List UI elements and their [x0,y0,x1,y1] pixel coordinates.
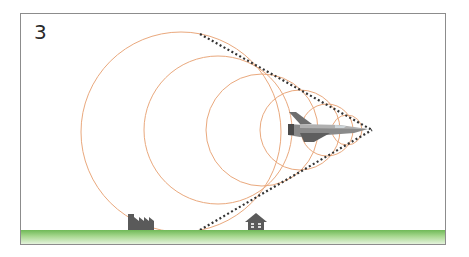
wavefront-2 [144,56,292,204]
sonic-boom-diagram [0,0,469,257]
cone-upper-edge [200,34,372,130]
house-icon [245,213,267,230]
fighter-jet-icon [288,112,368,142]
wavefront-1 [81,32,281,232]
factory-icon [128,214,154,230]
ground [21,230,445,244]
